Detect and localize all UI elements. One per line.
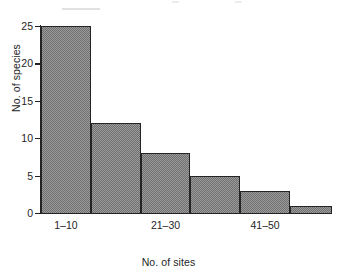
y-tick-mark	[35, 26, 40, 27]
y-tick-mark	[35, 101, 40, 102]
y-tick-label: 10	[21, 133, 33, 144]
bar	[91, 123, 141, 213]
y-tick-label: 15	[21, 96, 33, 107]
y-tick-label: 0	[27, 208, 33, 219]
bar	[141, 153, 191, 213]
x-tick-label: 1–10	[54, 219, 77, 231]
scan-artifact	[172, 1, 179, 3]
bar	[41, 26, 91, 213]
scan-artifact	[235, 1, 242, 3]
y-tick-label: 25	[21, 21, 33, 32]
bar	[190, 176, 240, 213]
x-axis-title: No. of sites	[0, 256, 337, 268]
plot-area: 25 20 15 10 5 0 1–10 21–30 41–50	[41, 26, 332, 213]
y-tick-mark	[35, 138, 40, 139]
bar	[290, 206, 332, 213]
x-axis-line	[40, 213, 332, 214]
scan-artifact	[62, 8, 100, 10]
y-tick-mark	[35, 63, 40, 64]
y-tick-label: 20	[21, 58, 33, 69]
x-tick-label: 41–50	[250, 219, 279, 231]
histogram-figure: No. of species 25 20 15 10 5 0 1–10 21–3…	[0, 0, 337, 276]
bar	[240, 191, 290, 213]
y-axis-title: No. of species	[10, 18, 22, 138]
y-tick-mark	[35, 213, 40, 214]
y-tick-mark	[35, 176, 40, 177]
x-tick-label: 21–30	[151, 219, 180, 231]
y-tick-label: 5	[27, 170, 33, 181]
